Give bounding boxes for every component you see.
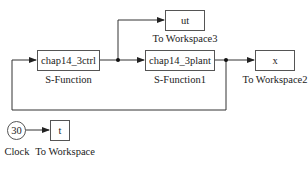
to-workspace-ut-text: ut	[181, 15, 189, 26]
to-workspace-t-text: t	[59, 125, 62, 136]
branch-point-ctrl	[116, 58, 120, 62]
sfunction-plant-text: chap14_3plant	[149, 55, 211, 66]
to-workspace-ut-block[interactable]: ut	[165, 10, 205, 31]
to-workspace-x-block[interactable]: x	[255, 50, 295, 71]
to-workspace-x-label: To Workspace2	[235, 74, 308, 85]
sfunction-ctrl-text: chap14_3ctrl	[41, 55, 96, 66]
clock-text: 30	[11, 125, 22, 136]
clock-block[interactable]: 30	[7, 121, 26, 140]
to-workspace-ut-label: To Workspace3	[145, 33, 225, 44]
sfunction-ctrl-label: S-Function	[37, 74, 100, 85]
sfunction-plant-block[interactable]: chap14_3plant	[145, 50, 215, 71]
branch-point-plant	[224, 58, 228, 62]
clock-label: Clock	[0, 146, 34, 157]
to-workspace-x-text: x	[272, 55, 277, 66]
sfunction-plant-label: S-Function1	[145, 74, 215, 85]
sfunction-ctrl-block[interactable]: chap14_3ctrl	[37, 50, 100, 71]
to-workspace-t-block[interactable]: t	[50, 120, 70, 141]
to-workspace-t-label: To Workspace	[30, 146, 100, 157]
